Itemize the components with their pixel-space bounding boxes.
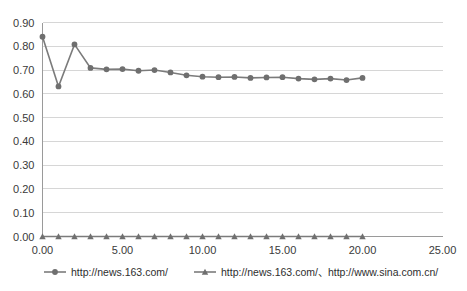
legend-entry-1[interactable]: http://news.163.com/	[44, 266, 168, 278]
y-tick-label: 0.30	[13, 159, 34, 171]
y-tick-label: 0.60	[13, 88, 34, 100]
data-point-marker	[40, 34, 46, 40]
legend-label: http://news.163.com/、http://www.sina.com…	[221, 266, 438, 278]
series-2	[39, 233, 365, 239]
series-1	[40, 34, 366, 89]
y-tick-label: 0.70	[13, 64, 34, 76]
y-tick-label: 0.90	[13, 17, 34, 29]
line-chart: 0.000.100.200.300.400.500.600.700.800.90…	[0, 0, 467, 291]
y-tick-label: 0.80	[13, 40, 34, 52]
data-point-marker	[328, 76, 334, 82]
chart-legend: http://news.163.com/http://news.163.com/…	[44, 266, 438, 278]
y-tick-label: 0.40	[13, 135, 34, 147]
gridlines	[43, 23, 443, 213]
chart-page: 0.000.100.200.300.400.500.600.700.800.90…	[0, 0, 467, 291]
data-point-marker	[56, 84, 62, 90]
data-point-marker	[296, 76, 302, 82]
data-point-marker	[200, 74, 206, 80]
x-tick-label: 25.00	[429, 244, 457, 256]
data-point-marker	[72, 41, 78, 47]
data-point-marker	[88, 65, 94, 71]
y-tick-label: 0.20	[13, 183, 34, 195]
x-tick-label: 20.00	[349, 244, 377, 256]
data-point-marker	[184, 72, 190, 78]
data-point-marker	[136, 68, 142, 74]
x-tick-label: 0.00	[32, 244, 53, 256]
data-point-marker	[120, 66, 126, 72]
x-tick-label: 10.00	[189, 244, 217, 256]
y-tick-label: 0.10	[13, 207, 34, 219]
legend-label: http://news.163.com/	[71, 266, 168, 278]
data-point-marker	[344, 77, 350, 83]
data-point-marker	[360, 75, 366, 81]
legend-entry-2[interactable]: http://news.163.com/、http://www.sina.com…	[194, 266, 438, 278]
data-point-marker	[104, 66, 110, 72]
data-point-marker	[280, 74, 286, 80]
x-tick-label: 5.00	[112, 244, 133, 256]
x-tick-label: 15.00	[269, 244, 297, 256]
legend-marker-circle-icon	[52, 269, 58, 275]
data-point-marker	[312, 76, 318, 82]
data-point-marker	[264, 75, 270, 81]
data-point-marker	[168, 70, 174, 76]
data-point-marker	[232, 74, 238, 80]
data-series-group	[39, 34, 365, 239]
data-point-marker	[216, 74, 222, 80]
y-tick-label: 0.00	[13, 231, 34, 243]
y-tick-label: 0.50	[13, 112, 34, 124]
axes	[43, 23, 443, 237]
data-point-marker	[152, 67, 158, 73]
y-axis-tick-labels: 0.000.100.200.300.400.500.600.700.800.90	[13, 17, 34, 243]
data-point-marker	[248, 75, 254, 81]
x-axis-tick-labels: 0.005.0010.0015.0020.0025.00	[32, 244, 456, 256]
